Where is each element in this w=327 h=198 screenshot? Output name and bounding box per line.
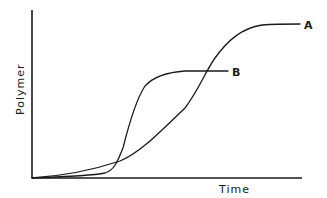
chart: A B Time Polymer: [0, 0, 327, 198]
series-a-label: A: [304, 19, 313, 32]
x-axis-title: Time: [218, 183, 250, 196]
y-axis-title: Polymer: [14, 63, 27, 115]
series-b-label: B: [232, 66, 240, 79]
series-a-line: [32, 24, 300, 178]
